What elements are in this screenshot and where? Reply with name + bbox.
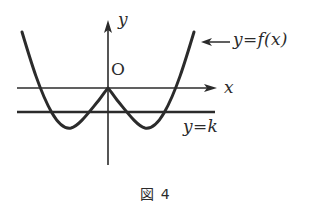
figure-container: y x O y=f(x) y=k 図 4: [0, 0, 311, 209]
k-line-equation-label: y=k: [183, 118, 218, 135]
curve-label-leader: [201, 38, 230, 46]
curve-equation-label: y=f(x): [233, 31, 288, 48]
figure-caption: 図 4: [0, 183, 311, 203]
x-axis: [17, 84, 217, 92]
origin-label: O: [111, 61, 125, 78]
x-axis-label: x: [224, 79, 234, 96]
y-axis-label: y: [118, 11, 128, 28]
